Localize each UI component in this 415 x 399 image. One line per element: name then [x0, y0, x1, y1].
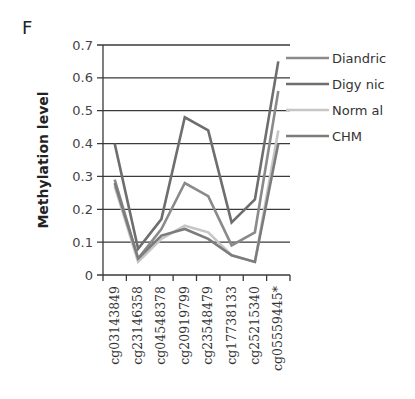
y-axis-title: Methylation level: [35, 91, 51, 228]
x-category-label: cg23146358: [130, 286, 145, 365]
y-tick-label: 0.1: [72, 235, 93, 250]
series-line-chm: [115, 144, 279, 262]
y-tick-label: 0: [85, 268, 93, 283]
series-line-digynic: [115, 61, 279, 248]
x-category-label: cg23548479: [200, 286, 215, 365]
x-category-label: cg20919799: [177, 286, 192, 365]
x-category-label: cg25215340: [247, 286, 262, 365]
y-tick-label: 0.6: [72, 70, 93, 85]
y-tick-label: 0.2: [72, 202, 93, 217]
x-category-label: cg04548378: [153, 286, 168, 365]
series-lines: [115, 61, 279, 262]
y-tick-label: 0.4: [72, 136, 93, 151]
y-tick-label: 0.3: [72, 169, 93, 184]
x-category-label: cg03143849: [107, 286, 122, 365]
x-category-label: cg05559445*: [270, 285, 285, 371]
legend-label: Digy nic: [332, 77, 385, 92]
legend-label: Diandric: [332, 51, 386, 66]
y-tick-label: 0.5: [72, 103, 93, 118]
line-chart: 00.10.20.30.40.50.60.7cg03143849cg231463…: [0, 0, 415, 399]
legend-label: CHM: [332, 129, 362, 144]
x-axis: cg03143849cg23146358cg04548378cg20919799…: [103, 275, 290, 371]
x-category-label: cg17738133: [224, 286, 239, 365]
legend: DiandricDigy nicNorm alCHM: [286, 51, 386, 144]
legend-label: Norm al: [332, 103, 383, 118]
y-tick-label: 0.7: [72, 38, 93, 53]
